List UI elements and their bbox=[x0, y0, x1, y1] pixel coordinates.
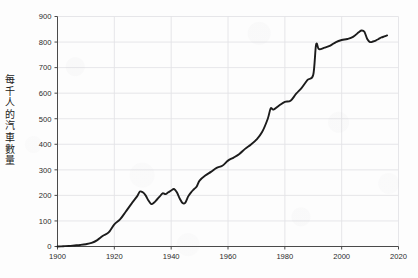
y-tick-label-700: 700 bbox=[39, 63, 52, 72]
y-tick-label-300: 300 bbox=[39, 166, 52, 175]
x-tick-label-1940: 1940 bbox=[163, 252, 180, 261]
line-chart-plot: 0100200300400500600700800900 19001920194… bbox=[0, 0, 418, 278]
series-line-0 bbox=[58, 31, 388, 247]
y-tick-label-800: 800 bbox=[39, 38, 52, 47]
y-tick-label-900: 900 bbox=[39, 12, 52, 21]
y-tick-label-100: 100 bbox=[39, 217, 52, 226]
chart-container: 每 千 人 的 汽 車 數 量 010020030040050060070080… bbox=[0, 0, 418, 278]
y-tick-label-0: 0 bbox=[47, 242, 51, 251]
x-tick-labels: 1900192019401960198020002020 bbox=[49, 252, 407, 261]
y-tick-label-600: 600 bbox=[39, 89, 52, 98]
y-tick-label-500: 500 bbox=[39, 115, 52, 124]
x-tick-label-1900: 1900 bbox=[49, 252, 66, 261]
y-tick-labels: 0100200300400500600700800900 bbox=[39, 12, 52, 251]
vertical-gridlines bbox=[114, 17, 398, 247]
y-tick-label-200: 200 bbox=[39, 191, 52, 200]
x-tick-label-1920: 1920 bbox=[106, 252, 123, 261]
x-tick-label-2020: 2020 bbox=[390, 252, 407, 261]
x-tick-label-1980: 1980 bbox=[276, 252, 293, 261]
data-series-group bbox=[58, 31, 388, 247]
y-axis-label: 每 千 人 的 汽 車 數 量 bbox=[2, 74, 18, 167]
x-tick-label-1960: 1960 bbox=[220, 252, 237, 261]
x-tick-label-2000: 2000 bbox=[333, 252, 350, 261]
y-tick-label-400: 400 bbox=[39, 140, 52, 149]
